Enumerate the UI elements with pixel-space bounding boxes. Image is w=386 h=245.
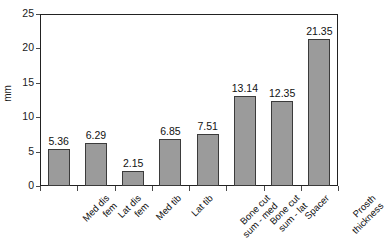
- x-axis-label: Med dis fem: [80, 193, 118, 231]
- bar: [48, 149, 70, 186]
- x-tick-mark: [338, 186, 339, 191]
- x-tick-mark: [152, 186, 153, 191]
- y-tick-label: 5: [16, 146, 34, 156]
- bar-value-label: 5.36: [39, 135, 79, 147]
- x-tick-mark: [264, 186, 265, 191]
- bar: [122, 171, 144, 186]
- bar-value-label: 2.15: [113, 157, 153, 169]
- y-tick-label: 15: [16, 77, 34, 87]
- x-axis-label: Spacer: [303, 193, 332, 222]
- x-tick-mark: [301, 186, 302, 191]
- x-axis-label: Prosth thickness: [343, 193, 386, 236]
- x-axis-label: Med tib: [154, 193, 183, 222]
- y-tick-label: 20: [16, 42, 34, 52]
- bar-value-label: 12.35: [262, 87, 302, 99]
- x-tick-mark: [115, 186, 116, 191]
- x-tick-mark: [40, 186, 41, 191]
- x-axis-label: Lat tib: [190, 193, 216, 219]
- bar-value-label: 7.51: [188, 120, 228, 132]
- bar-value-label: 6.29: [76, 129, 116, 141]
- y-tick-label: 10: [16, 111, 34, 121]
- y-tick-label: 25: [16, 8, 34, 18]
- bar: [85, 143, 107, 186]
- bar-value-label: 21.35: [299, 25, 339, 37]
- bar-value-label: 6.85: [150, 125, 190, 137]
- x-axis-label: Lat dis fem: [116, 193, 151, 228]
- bar: [197, 134, 219, 186]
- x-tick-mark: [77, 186, 78, 191]
- bar: [234, 96, 256, 186]
- x-tick-mark: [226, 186, 227, 191]
- x-tick-mark: [189, 186, 190, 191]
- y-axis-title: mm: [2, 74, 13, 114]
- bar-value-label: 13.14: [225, 82, 265, 94]
- bar: [159, 139, 181, 186]
- y-tick-label: 0: [16, 180, 34, 190]
- bar: [271, 101, 293, 186]
- bars-layer: [40, 14, 338, 186]
- bar: [308, 39, 330, 186]
